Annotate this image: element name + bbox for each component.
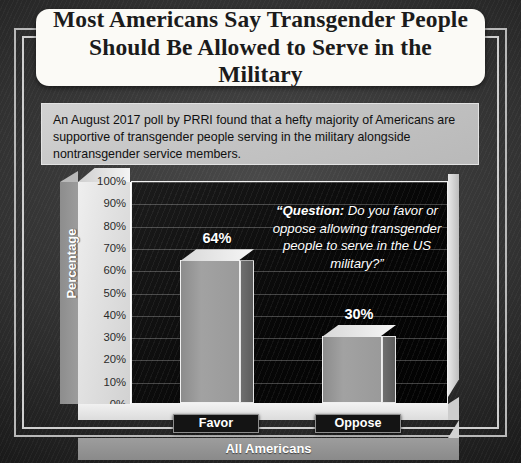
plot-floor bbox=[78, 404, 459, 420]
gridline-100 bbox=[132, 182, 447, 183]
bar-top-face bbox=[180, 249, 254, 261]
bar-favor bbox=[180, 248, 254, 403]
y-axis-tick-100: 100% bbox=[80, 175, 126, 187]
y-axis-wall: 100%90%80%70%60%50%40%30%20%10%0% bbox=[78, 182, 131, 404]
bar-side-face bbox=[382, 336, 396, 403]
bar-top-face bbox=[322, 325, 396, 337]
y-axis-wall-side-bevel bbox=[60, 171, 78, 182]
intro-paragraph: An August 2017 poll by PRRI found that a… bbox=[53, 112, 467, 163]
y-axis-title: Percentage bbox=[64, 209, 79, 319]
y-axis-tick-30: 30% bbox=[80, 331, 126, 343]
y-axis-tick-20: 20% bbox=[80, 353, 126, 365]
bar-value-label-oppose: 30% bbox=[319, 306, 399, 322]
plot-area: “Question: Do you favor or oppose allowi… bbox=[131, 181, 448, 404]
y-axis-tick-50: 50% bbox=[80, 287, 126, 299]
page-title: Most Americans Say Transgender People Sh… bbox=[36, 6, 485, 88]
y-axis-tick-60: 60% bbox=[80, 264, 126, 276]
infographic-canvas: Most Americans Say Transgender People Sh… bbox=[0, 0, 521, 463]
category-label-favor: Favor bbox=[173, 414, 259, 433]
question-annotation: “Question: Do you favor or oppose allowi… bbox=[272, 202, 442, 272]
bar-oppose bbox=[322, 324, 396, 403]
y-axis-tick-40: 40% bbox=[80, 309, 126, 321]
intro-panel: An August 2017 poll by PRRI found that a… bbox=[41, 103, 479, 165]
x-axis-group-label: All Americans bbox=[78, 438, 459, 460]
y-axis-tick-80: 80% bbox=[80, 220, 126, 232]
plot-right-edge bbox=[448, 174, 459, 397]
question-label: “Question: bbox=[276, 203, 344, 218]
bar-chart: 100%90%80%70%60%50%40%30%20%10%0% Percen… bbox=[60, 168, 460, 441]
y-axis-tick-90: 90% bbox=[80, 197, 126, 209]
y-axis-tick-70: 70% bbox=[80, 242, 126, 254]
bar-front-face bbox=[322, 336, 382, 403]
plot-floor-edge bbox=[448, 397, 459, 420]
bar-value-label-favor: 64% bbox=[177, 230, 257, 246]
y-axis-tick-10: 10% bbox=[80, 376, 126, 388]
category-label-oppose: Oppose bbox=[315, 414, 401, 433]
title-plaque: Most Americans Say Transgender People Sh… bbox=[36, 9, 485, 86]
bar-front-face bbox=[180, 260, 240, 403]
bar-side-face bbox=[240, 260, 254, 403]
